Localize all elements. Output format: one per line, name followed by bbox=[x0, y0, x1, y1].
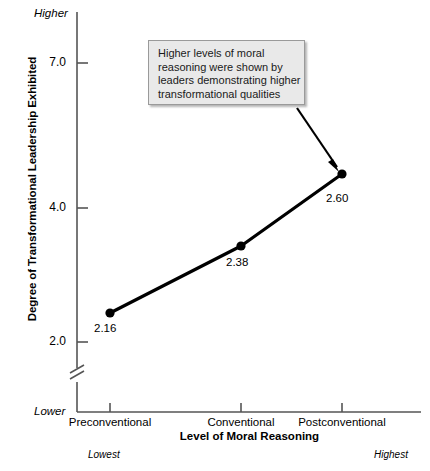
annotation-line-3: leaders demonstrating higher bbox=[158, 74, 302, 88]
data-point-marker-3 bbox=[337, 169, 346, 178]
y-axis-title: Degree of Transformational Leadership Ex… bbox=[26, 39, 38, 339]
y-axis-pole-label-higher: Higher bbox=[34, 7, 68, 19]
annotation-line-4: transformational qualities bbox=[158, 88, 302, 102]
x-tick-label-preconventional: Preconventional bbox=[40, 416, 180, 428]
x-axis-pole-label-lowest: Lowest bbox=[88, 449, 120, 460]
annotation-arrow-line bbox=[297, 108, 337, 167]
chart-figure: Degree of Transformational Leadership Ex… bbox=[0, 0, 430, 471]
data-point-value-1: 2.16 bbox=[94, 322, 116, 334]
x-axis-pole-label-highest: Highest bbox=[374, 449, 408, 460]
annotation-arrow-head bbox=[328, 159, 339, 172]
data-point-value-2: 2.38 bbox=[226, 256, 248, 268]
annotation-callout-text: Higher levels of moral reasoning were sh… bbox=[158, 47, 302, 101]
data-point-marker-2 bbox=[236, 241, 245, 250]
y-tick-label-4: 4.0 bbox=[26, 200, 66, 214]
annotation-line-1: Higher levels of moral bbox=[158, 47, 302, 61]
x-tick-label-postconventional: Postconventional bbox=[272, 416, 412, 428]
y-axis-pole-label-lower: Lower bbox=[34, 405, 65, 417]
data-point-marker-1 bbox=[105, 308, 114, 317]
series-line bbox=[110, 174, 342, 313]
x-axis-title: Level of Moral Reasoning bbox=[77, 430, 422, 442]
annotation-callout-box: Higher levels of moral reasoning were sh… bbox=[148, 40, 305, 105]
y-tick-label-7: 7.0 bbox=[26, 55, 66, 69]
y-tick-label-2: 2.0 bbox=[26, 334, 66, 348]
annotation-line-2: reasoning were shown by bbox=[158, 61, 302, 75]
data-point-value-3: 2.60 bbox=[326, 192, 348, 204]
